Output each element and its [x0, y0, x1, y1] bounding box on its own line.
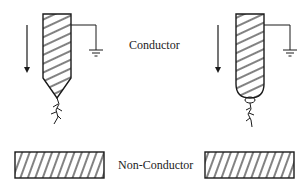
non-conductor-label: Non-Conductor	[118, 158, 193, 173]
diagram-canvas: Conductor Non-Conductor	[0, 0, 308, 188]
conductor-label: Conductor	[129, 38, 180, 53]
discharge-icon	[246, 103, 254, 127]
discharge-icon	[51, 98, 62, 124]
ground-icon	[89, 50, 103, 56]
ground-icon	[283, 50, 297, 56]
left-electrode	[24, 14, 103, 124]
left-nonconductor-block	[15, 152, 104, 178]
right-nonconductor-block	[205, 152, 294, 178]
right-electrode	[215, 14, 297, 127]
